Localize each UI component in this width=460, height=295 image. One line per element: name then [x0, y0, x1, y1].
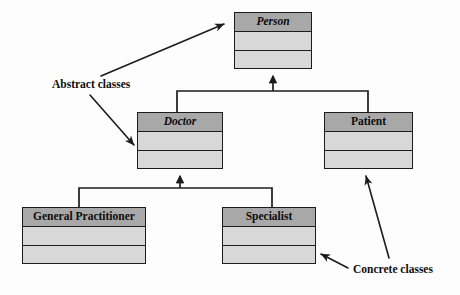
class-operations-doctor: [138, 151, 222, 169]
uml-class-patient[interactable]: Patient: [324, 112, 413, 169]
uml-class-specialist[interactable]: Specialist: [222, 207, 316, 264]
class-attributes-specialist: [223, 227, 315, 246]
class-attributes-patient: [325, 132, 412, 151]
annotation-abstract-classes: Abstract classes: [52, 78, 130, 90]
class-attributes-doctor: [138, 132, 222, 151]
leader-concrete-to-patient: [366, 176, 389, 258]
generalization-bus-person: [177, 91, 368, 112]
class-attributes-general-practitioner: [23, 227, 145, 246]
class-name-general-practitioner: General Practitioner: [23, 208, 145, 227]
class-operations-person: [235, 51, 311, 69]
class-attributes-person: [235, 32, 311, 51]
class-name-patient: Patient: [325, 113, 412, 132]
class-name-person: Person: [235, 13, 311, 32]
uml-class-general-practitioner[interactable]: General Practitioner: [22, 207, 146, 264]
uml-class-diagram: Person Doctor Patient General Practition…: [0, 0, 460, 295]
leader-abstract-to-doctor: [90, 95, 134, 145]
class-name-doctor: Doctor: [138, 113, 222, 132]
class-operations-general-practitioner: [23, 246, 145, 264]
class-operations-specialist: [223, 246, 315, 264]
class-name-specialist: Specialist: [223, 208, 315, 227]
leader-concrete-to-specialist: [321, 254, 348, 268]
class-operations-patient: [325, 151, 412, 169]
leader-abstract-to-person: [101, 24, 224, 76]
annotation-concrete-classes: Concrete classes: [353, 263, 433, 275]
uml-class-person[interactable]: Person: [234, 12, 312, 69]
generalization-bus-doctor: [79, 188, 272, 207]
uml-class-doctor[interactable]: Doctor: [137, 112, 223, 169]
